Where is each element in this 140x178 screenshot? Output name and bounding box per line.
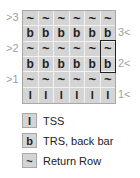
legend-item-tss: I TSS [22,113,64,128]
legend-label: TRS, back bar [43,135,113,147]
chart-cell: b [70,26,86,40]
chart-cell: I [85,88,101,103]
chart-cell: ~ [54,72,70,86]
chart-cell: ~ [101,11,116,25]
chart-cell: ~ [70,72,86,86]
legend-item-return-row: ~ Return Row [22,153,101,168]
chart-cell: ~ [85,72,101,86]
chart-cell: b [85,57,101,71]
row-label-right-1: 1< [118,89,131,100]
chart-cell: b [101,26,116,40]
chart-cell: ~ [39,42,55,56]
chart-cell: I [39,88,55,103]
chart-cell: b [39,26,55,40]
chart-cell: ~ [101,72,116,86]
chart-cell: ~ [39,11,55,25]
chart-cell: b [54,57,70,71]
repeat-highlight-box [100,40,116,73]
chart-cell: ~ [39,72,55,86]
chart-cell: I [23,88,39,103]
chart-cell: ~ [23,11,39,25]
chart-cell: b [39,57,55,71]
trs-symbol-icon: b [22,133,37,148]
row-label-left-1: >1 [6,74,19,85]
chart-cell: I [54,88,70,103]
chart-cell: ~ [70,11,86,25]
chart-cell: ~ [54,42,70,56]
return-row-symbol-icon: ~ [22,153,37,168]
legend-label: TSS [43,115,64,127]
chart-cell: I [70,88,86,103]
chart-cell: b [85,26,101,40]
legend-item-trs: b TRS, back bar [22,133,113,148]
legend-label: Return Row [43,155,101,167]
chart-cell: ~ [54,11,70,25]
row-label-right-2: 2< [118,58,131,69]
chart-cell: ~ [23,42,39,56]
chart-cell: b [70,57,86,71]
chart-cell: b [23,57,39,71]
chart-cell: ~ [85,42,101,56]
tss-symbol-icon: I [22,113,37,128]
row-label-left-3: >3 [6,12,19,23]
chart-cell: ~ [23,72,39,86]
chart-row-1: I I I I I I [23,88,115,103]
row-label-left-2: >2 [6,43,19,54]
chart-cell: ~ [85,11,101,25]
chart-cell: b [54,26,70,40]
row-label-right-3: 3< [118,27,131,38]
chart-row-6: ~ ~ ~ ~ ~ ~ [23,11,115,26]
chart-cell: I [101,88,116,103]
chart-cell: ~ [70,42,86,56]
chart-row-2: ~ ~ ~ ~ ~ ~ [23,72,115,87]
chart-cell: b [23,26,39,40]
